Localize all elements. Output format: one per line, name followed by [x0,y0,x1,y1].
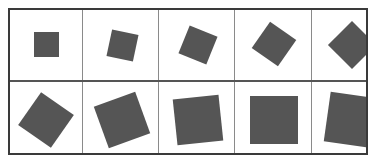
rotated-square [173,95,224,146]
rotated-square [18,92,74,148]
rotated-square [252,22,297,67]
rotated-square [94,92,150,148]
rotated-square [328,21,368,69]
rotated-square [324,92,368,148]
rotated-square [250,96,298,144]
square-rotation-grid [8,8,368,155]
rotated-square [178,25,217,64]
rotated-square [34,32,59,57]
row-divider [10,80,366,82]
rotated-square [106,29,138,61]
